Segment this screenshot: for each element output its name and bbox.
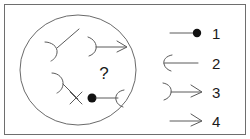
legend-label-3: 3 xyxy=(212,84,220,101)
unknown-marker: ? xyxy=(99,64,108,83)
legend-label-1: 1 xyxy=(212,25,220,42)
diagram-canvas: ? 1 2 3 4 xyxy=(0,0,250,139)
figure-root: ? 1 2 3 4 xyxy=(0,0,250,139)
figure-frame xyxy=(5,5,246,135)
legend-label-2: 2 xyxy=(212,55,220,72)
legend-label-4: 4 xyxy=(212,113,220,130)
dot-icon xyxy=(88,94,97,103)
dot-icon xyxy=(193,29,201,37)
